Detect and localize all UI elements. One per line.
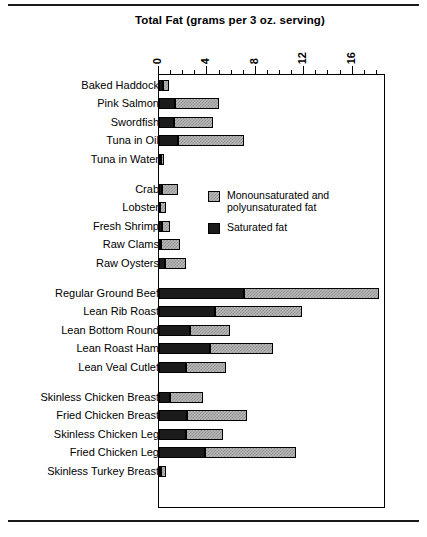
bar-segment-saturated-fat — [159, 447, 205, 458]
category-label: Lobster — [9, 200, 159, 215]
legend-label: Monounsaturated and polyunsaturated fat — [227, 190, 383, 213]
stacked-bar — [159, 362, 226, 373]
bar-segment-unsaturated-fat — [161, 466, 166, 477]
category-label: Fried Chicken Leg — [9, 445, 159, 460]
x-axis-tick-label: 12 — [297, 52, 308, 64]
category-label: Pink Salmon — [9, 96, 159, 111]
stacked-bar — [159, 154, 164, 165]
bar-row: Fried Chicken Breast — [0, 408, 427, 423]
x-axis-major-tick — [158, 66, 159, 74]
legend-swatch-icon — [208, 191, 220, 202]
bar-segment-unsaturated-fat — [160, 202, 166, 213]
x-axis-major-tick — [352, 66, 353, 74]
bar-segment-unsaturated-fat — [161, 154, 164, 165]
stacked-bar — [159, 135, 244, 146]
bar-row: Skinless Chicken Breast — [0, 390, 427, 405]
bar-segment-unsaturated-fat — [215, 306, 302, 317]
stacked-bar — [159, 466, 166, 477]
bar-row: Tuna in Water — [0, 152, 427, 167]
bottom-divider-rule — [8, 520, 419, 522]
stacked-bar — [159, 429, 223, 440]
bar-segment-saturated-fat — [159, 429, 186, 440]
x-axis-tick-label: 4 — [200, 58, 211, 64]
bar-segment-saturated-fat — [159, 410, 187, 421]
category-label: Lean Roast Ham — [9, 341, 159, 356]
bar-row: Baked Haddock — [0, 78, 427, 93]
bar-row: Lean Veal Cutlet — [0, 360, 427, 375]
bar-segment-unsaturated-fat — [163, 80, 169, 91]
bar-row: Lean Rib Roast — [0, 304, 427, 319]
bar-segment-unsaturated-fat — [178, 135, 243, 146]
bar-row: Tuna in Oil — [0, 133, 427, 148]
category-label: Lean Veal Cutlet — [9, 360, 159, 375]
bar-row: Swordfish — [0, 115, 427, 130]
bar-row: Lean Bottom Round — [0, 323, 427, 338]
bar-segment-unsaturated-fat — [170, 392, 203, 403]
legend-item: Monounsaturated and polyunsaturated fat — [208, 190, 383, 213]
bar-segment-unsaturated-fat — [174, 117, 214, 128]
category-label: Skinless Turkey Breast — [9, 464, 159, 479]
bar-segment-saturated-fat — [159, 392, 170, 403]
stacked-bar — [159, 258, 186, 269]
bar-segment-unsaturated-fat — [175, 98, 220, 109]
stacked-bar — [159, 80, 169, 91]
bar-segment-unsaturated-fat — [187, 410, 248, 421]
bar-segment-unsaturated-fat — [161, 239, 179, 250]
bar-segment-saturated-fat — [159, 343, 210, 354]
x-axis-tick-labels: 0481216 — [158, 36, 387, 64]
category-label: Skinless Chicken Leg — [9, 427, 159, 442]
category-label: Swordfish — [9, 115, 159, 130]
chart-title: Total Fat (grams per 3 oz. serving) — [60, 14, 400, 26]
x-axis-tick-label: 8 — [249, 58, 260, 64]
bar-segment-unsaturated-fat — [205, 447, 296, 458]
bar-segment-unsaturated-fat — [186, 429, 224, 440]
bar-row: Skinless Turkey Breast — [0, 464, 427, 479]
bar-segment-unsaturated-fat — [162, 184, 178, 195]
bar-segment-saturated-fat — [159, 362, 186, 373]
legend-label: Saturated fat — [227, 222, 383, 234]
category-label: Lean Bottom Round — [9, 323, 159, 338]
stacked-bar — [159, 239, 180, 250]
chart-legend: Monounsaturated and polyunsaturated fatS… — [208, 190, 383, 245]
x-axis-major-tick — [206, 66, 207, 74]
bar-segment-saturated-fat — [159, 98, 175, 109]
category-label: Fried Chicken Breast — [9, 408, 159, 423]
category-label: Raw Clams — [9, 237, 159, 252]
bar-segment-unsaturated-fat — [165, 258, 186, 269]
x-axis-tick-label: 16 — [346, 52, 357, 64]
bar-row: Raw Oysters — [0, 256, 427, 271]
bar-row: Skinless Chicken Leg — [0, 427, 427, 442]
bar-segment-saturated-fat — [159, 135, 178, 146]
stacked-bar — [159, 410, 247, 421]
bar-segment-unsaturated-fat — [186, 362, 226, 373]
x-axis-major-tick — [255, 66, 256, 74]
bar-row: Lean Roast Ham — [0, 341, 427, 356]
chart-figure: Total Fat (grams per 3 oz. serving) 0481… — [0, 0, 427, 537]
legend-item: Saturated fat — [208, 222, 383, 236]
category-label: Fresh Shrimp — [9, 219, 159, 234]
bar-rows: Baked HaddockPink SalmonSwordfishTuna in… — [0, 74, 427, 508]
stacked-bar — [159, 117, 213, 128]
stacked-bar — [159, 325, 230, 336]
category-label: Regular Ground Beef — [9, 286, 159, 301]
bar-segment-saturated-fat — [159, 117, 174, 128]
stacked-bar — [159, 98, 220, 109]
category-label: Baked Haddock — [9, 78, 159, 93]
stacked-bar — [159, 392, 203, 403]
category-label: Raw Oysters — [9, 256, 159, 271]
legend-swatch-icon — [208, 223, 220, 234]
stacked-bar — [159, 184, 178, 195]
x-axis-ticks — [158, 66, 387, 74]
stacked-bar — [159, 447, 296, 458]
top-divider-rule — [8, 4, 419, 6]
stacked-bar — [159, 288, 379, 299]
bar-segment-saturated-fat — [159, 288, 244, 299]
bar-segment-unsaturated-fat — [244, 288, 380, 299]
category-label: Skinless Chicken Breast — [9, 390, 159, 405]
bar-segment-unsaturated-fat — [210, 343, 273, 354]
bar-row: Fried Chicken Leg — [0, 445, 427, 460]
bar-row: Regular Ground Beef — [0, 286, 427, 301]
bar-segment-unsaturated-fat — [190, 325, 230, 336]
stacked-bar — [159, 221, 170, 232]
category-label: Tuna in Oil — [9, 133, 159, 148]
